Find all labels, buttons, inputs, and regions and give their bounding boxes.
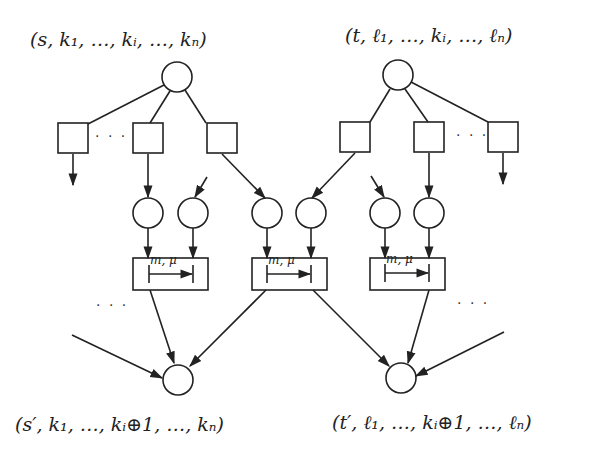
bottom-left-state-circle xyxy=(163,365,193,395)
bottom-right-state-circle xyxy=(386,363,416,393)
mid-circle-5 xyxy=(370,198,400,228)
label-bottom-left-state: (s′, k₁, …, kᵢ⊕1, …, kₙ) xyxy=(15,413,224,435)
label-bottom-right-state: (t′, ℓ₁, …, kᵢ⊕1, …, ℓₙ) xyxy=(332,411,532,434)
right-square-1 xyxy=(340,122,370,152)
mid-circle-2 xyxy=(178,198,208,228)
bracket-arrow-left xyxy=(149,265,193,283)
right-square-2 xyxy=(414,122,444,152)
left-square-3 xyxy=(207,123,237,153)
transition-label-left: m, μ xyxy=(150,253,177,267)
ellipsis-top-left: · · · xyxy=(95,128,127,144)
top-right-state-circle xyxy=(383,60,413,90)
left-square-2 xyxy=(133,123,163,153)
bracket-arrow-middle xyxy=(267,265,311,283)
ellipsis-top-right: · · · xyxy=(456,127,488,143)
bracket-arrow-right xyxy=(385,264,429,282)
transition-label-middle: m, μ xyxy=(268,253,295,267)
label-top-right-state: (t, ℓ₁, …, kᵢ, …, ℓₙ) xyxy=(345,24,512,47)
ellipsis-mid-left: · · · xyxy=(96,297,128,313)
top-left-state-circle xyxy=(162,62,192,92)
mid-circle-6 xyxy=(414,198,444,228)
left-square-1 xyxy=(58,123,88,153)
right-square-3 xyxy=(488,122,518,152)
transition-label-right: m, μ xyxy=(386,252,413,266)
petri-net-diagram xyxy=(0,0,603,456)
ellipsis-mid-right: · · · xyxy=(457,295,489,311)
mid-circle-4 xyxy=(296,198,326,228)
mid-circle-1 xyxy=(133,198,163,228)
label-top-left-state: (s, k₁, …, kᵢ, …, kₙ) xyxy=(30,28,207,50)
mid-circle-3 xyxy=(252,198,282,228)
